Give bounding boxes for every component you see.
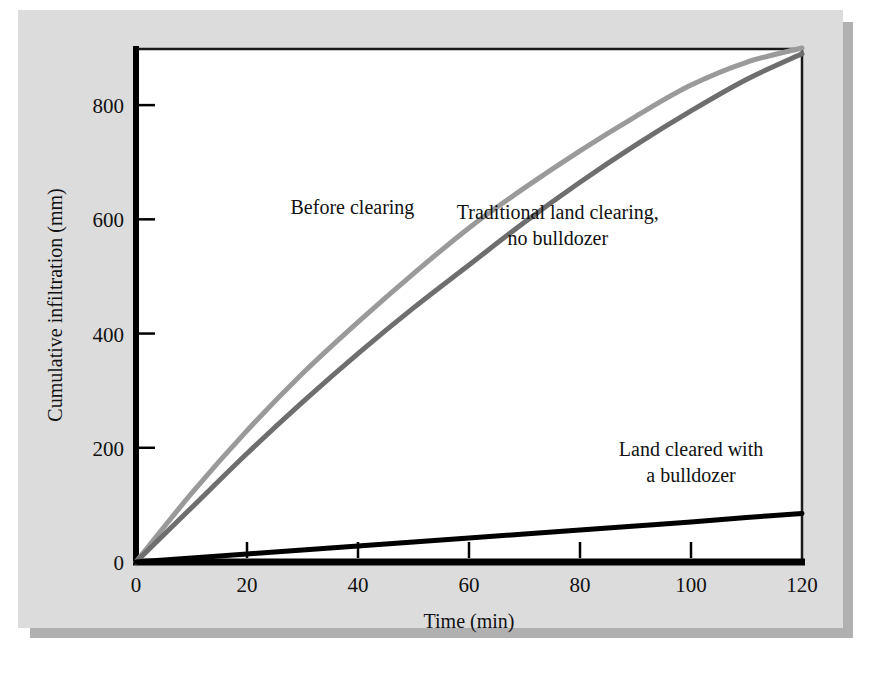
y-axis-tick-labels: 0200400600800 <box>93 94 125 575</box>
x-tick-label: 0 <box>131 573 142 597</box>
x-tick-label: 80 <box>570 573 591 597</box>
infiltration-line-chart: 0200400600800 020406080100120 Before cle… <box>0 0 876 677</box>
series-annotation-bulldozer: a bulldozer <box>646 464 736 486</box>
x-tick-label: 120 <box>786 573 818 597</box>
y-tick-label: 400 <box>93 323 125 347</box>
series-annotation-before-clearing: Before clearing <box>291 196 415 219</box>
series-annotation-bulldozer: Land cleared with <box>619 438 763 460</box>
y-tick-label: 0 <box>114 551 125 575</box>
series-annotation-traditional-clearing: no bulldozer <box>508 227 609 249</box>
y-tick-label: 200 <box>93 437 125 461</box>
x-axis-tick-labels: 020406080100120 <box>131 573 818 597</box>
y-tick-label: 800 <box>93 94 125 118</box>
series-annotation-traditional-clearing: Traditional land clearing, <box>457 201 659 224</box>
y-axis-title: Cumulative infiltration (mm) <box>44 188 67 421</box>
x-tick-label: 20 <box>237 573 258 597</box>
x-tick-label: 100 <box>675 573 707 597</box>
x-tick-label: 60 <box>459 573 480 597</box>
y-tick-label: 600 <box>93 208 125 232</box>
x-tick-label: 40 <box>348 573 369 597</box>
x-axis-title: Time (min) <box>424 610 515 633</box>
